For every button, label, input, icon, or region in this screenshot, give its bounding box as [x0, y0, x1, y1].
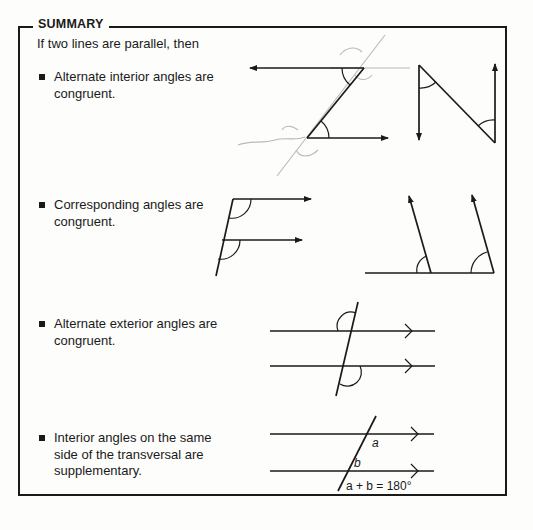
figure-alternate-interior-n [419, 64, 495, 143]
geometry-figures: a b a + b = 180° [0, 0, 533, 530]
figure-same-side-interior: a b a + b = 180° [270, 416, 434, 493]
figure-alternate-interior-z [238, 35, 410, 176]
figure-corresponding-f [216, 199, 311, 276]
figure-corresponding-base [365, 195, 494, 273]
angle-a-label: a [372, 436, 379, 450]
supplementary-equation: a + b = 180° [346, 479, 412, 493]
angle-b-label: b [354, 456, 361, 470]
figure-alternate-exterior [270, 302, 435, 396]
